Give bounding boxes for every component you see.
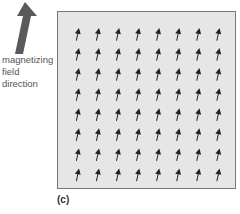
- dipole-arrow-icon: [94, 108, 102, 122]
- dipole-arrow-icon: [114, 108, 122, 122]
- dipole-arrow-icon: [73, 47, 81, 61]
- dipole-arrow-icon: [134, 67, 142, 81]
- dipole-arrow-icon: [194, 88, 202, 102]
- dipole-arrow-icon: [174, 67, 182, 81]
- dipole-arrow-icon: [214, 108, 222, 122]
- dipole-arrow-icon: [194, 168, 202, 182]
- dipole-arrow-icon: [174, 108, 182, 122]
- dipole-arrow-icon: [174, 27, 182, 41]
- dipole-arrow-icon: [94, 47, 102, 61]
- dipole-arrow-icon: [114, 27, 122, 41]
- dipole-arrow-icon: [114, 148, 122, 162]
- dipole-arrow-icon: [114, 128, 122, 142]
- dipole-arrow-icon: [94, 27, 102, 41]
- dipole-arrow-icon: [214, 168, 222, 182]
- dipole-arrow-icon: [134, 128, 142, 142]
- domain-grid-box: [57, 11, 236, 189]
- field-direction-caption: magnetizing field direction: [2, 54, 53, 90]
- dipole-arrow-icon: [114, 168, 122, 182]
- dipole-arrow-icon: [134, 27, 142, 41]
- caption-line: direction: [2, 78, 53, 90]
- dipole-arrow-icon: [154, 88, 162, 102]
- dipole-arrow-icon: [73, 108, 81, 122]
- aligned-dipole-grid: [58, 12, 235, 188]
- dipole-arrow-icon: [73, 128, 81, 142]
- dipole-arrow-icon: [174, 148, 182, 162]
- dipole-arrow-icon: [94, 148, 102, 162]
- dipole-arrow-icon: [174, 88, 182, 102]
- dipole-arrow-icon: [194, 47, 202, 61]
- dipole-arrow-icon: [94, 67, 102, 81]
- dipole-arrow-icon: [73, 168, 81, 182]
- magnetizing-field-arrow-icon: [4, 2, 40, 54]
- dipole-arrow-icon: [194, 108, 202, 122]
- dipole-arrow-icon: [214, 67, 222, 81]
- dipole-arrow-icon: [174, 47, 182, 61]
- dipole-arrow-icon: [134, 88, 142, 102]
- dipole-arrow-icon: [73, 88, 81, 102]
- dipole-arrow-icon: [94, 168, 102, 182]
- caption-line: field: [2, 66, 53, 78]
- dipole-arrow-icon: [214, 148, 222, 162]
- dipole-arrow-icon: [214, 88, 222, 102]
- dipole-arrow-icon: [94, 128, 102, 142]
- figure-label: (c): [57, 194, 69, 205]
- dipole-arrow-icon: [73, 67, 81, 81]
- dipole-arrow-icon: [154, 27, 162, 41]
- dipole-arrow-icon: [194, 128, 202, 142]
- dipole-arrow-icon: [154, 67, 162, 81]
- dipole-arrow-icon: [154, 108, 162, 122]
- dipole-arrow-icon: [194, 148, 202, 162]
- dipole-arrow-icon: [114, 67, 122, 81]
- dipole-arrow-icon: [134, 148, 142, 162]
- dipole-arrow-icon: [134, 108, 142, 122]
- dipole-arrow-icon: [154, 128, 162, 142]
- dipole-arrow-icon: [154, 148, 162, 162]
- dipole-arrow-icon: [194, 27, 202, 41]
- dipole-arrow-icon: [194, 67, 202, 81]
- dipole-arrow-icon: [174, 128, 182, 142]
- dipole-arrow-icon: [114, 47, 122, 61]
- dipole-arrow-icon: [73, 27, 81, 41]
- dipole-arrow-icon: [154, 168, 162, 182]
- dipole-arrow-icon: [174, 168, 182, 182]
- dipole-arrow-icon: [134, 47, 142, 61]
- dipole-arrow-icon: [94, 88, 102, 102]
- dipole-arrow-icon: [134, 168, 142, 182]
- dipole-arrow-icon: [214, 128, 222, 142]
- dipole-arrow-icon: [114, 88, 122, 102]
- dipole-arrow-icon: [214, 47, 222, 61]
- dipole-arrow-icon: [73, 148, 81, 162]
- caption-line: magnetizing: [2, 54, 53, 66]
- dipole-arrow-icon: [154, 47, 162, 61]
- dipole-arrow-icon: [214, 27, 222, 41]
